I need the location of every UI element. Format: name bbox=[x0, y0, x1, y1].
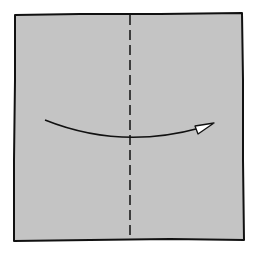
origami-diagram bbox=[0, 0, 257, 257]
paper-square bbox=[14, 13, 244, 241]
